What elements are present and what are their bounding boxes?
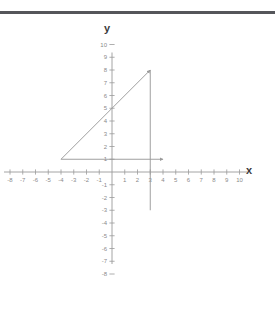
x-axis-tick-label: 7 xyxy=(200,177,204,183)
y-axis-tick-label: 7 xyxy=(104,80,108,86)
x-axis-tick-label: 8 xyxy=(212,177,216,183)
x-axis-tick-label: -6 xyxy=(33,177,39,183)
x-axis-tick-label: 5 xyxy=(174,177,178,183)
x-axis-tick-label: 1 xyxy=(123,177,127,183)
y-axis-tick-label: -6 xyxy=(102,246,108,252)
x-axis-tick-label: -8 xyxy=(7,177,13,183)
x-axis-tick-label: -3 xyxy=(71,177,77,183)
y-axis-tick-label: 5 xyxy=(104,105,108,111)
y-axis-tick-label: -4 xyxy=(102,220,108,226)
y-axis-tick-label: -1 xyxy=(102,182,108,188)
y-axis-label-holder: y xyxy=(104,18,110,36)
y-axis-tick-label: 4 xyxy=(104,118,108,124)
coordinate-plane-svg: -8-7-6-5-4-3-2-11234567891010987654321-1… xyxy=(0,0,275,314)
x-axis-tick-label: -4 xyxy=(58,177,64,183)
y-axis-label: y xyxy=(104,22,110,34)
x-axis-tick-label: 2 xyxy=(136,177,140,183)
x-axis-tick-label: -5 xyxy=(46,177,52,183)
y-axis-tick-label: 6 xyxy=(104,93,108,99)
x-axis-tick-label: -2 xyxy=(84,177,90,183)
y-axis-tick-label: 10 xyxy=(100,42,107,48)
y-axis-tick-label: -2 xyxy=(102,195,108,201)
x-axis-tick-label: -7 xyxy=(20,177,26,183)
x-axis-tick-label: 6 xyxy=(187,177,191,183)
x-axis-label-holder: x xyxy=(246,160,252,178)
y-axis-tick-label: -5 xyxy=(102,233,108,239)
y-axis-tick-label: 8 xyxy=(104,67,108,73)
x-axis-tick-label: 9 xyxy=(225,177,229,183)
y-axis-tick-label: 9 xyxy=(104,54,108,60)
y-axis-tick-label: -7 xyxy=(102,258,108,264)
y-axis-tick-label: -3 xyxy=(102,207,108,213)
x-axis-tick-label: 4 xyxy=(161,177,165,183)
figure-canvas: -8-7-6-5-4-3-2-11234567891010987654321-1… xyxy=(0,0,275,314)
y-axis-tick-label: 3 xyxy=(104,131,108,137)
y-axis-tick-label: 2 xyxy=(104,144,108,150)
x-axis-label: x xyxy=(246,164,252,176)
x-axis-tick-label: 10 xyxy=(236,177,243,183)
y-axis-tick-label: -8 xyxy=(102,271,108,277)
